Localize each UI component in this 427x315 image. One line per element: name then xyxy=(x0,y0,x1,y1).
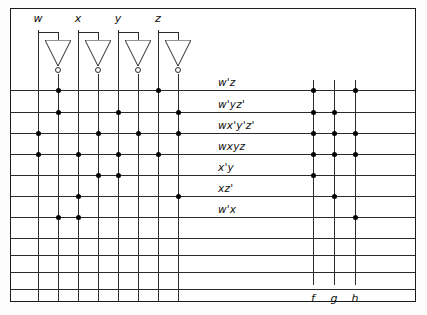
input-label-z: z xyxy=(155,12,161,25)
inverter-w xyxy=(45,40,71,66)
inverter-lead-x xyxy=(98,32,99,40)
inverter-tap-wire-w xyxy=(38,32,58,33)
and-dot-6-w-not xyxy=(56,215,61,220)
or-dot-2-g xyxy=(332,131,337,136)
and-dot-5-x xyxy=(76,194,81,199)
or-dot-0-f xyxy=(311,88,316,93)
inverter-bubble-y xyxy=(135,67,141,73)
input-line-x xyxy=(78,30,79,301)
or-dot-0-h xyxy=(353,88,358,93)
inverter-tap-wire-y xyxy=(118,32,138,33)
input-label-w: w xyxy=(34,12,43,25)
inverter-lead-y xyxy=(138,32,139,40)
and-dot-4-x-not xyxy=(96,173,101,178)
input-line-w-not xyxy=(58,74,59,301)
inverter-bubble-x xyxy=(95,67,101,73)
product-term-label-4: x'y xyxy=(218,161,234,173)
input-line-y xyxy=(118,30,119,301)
diagram-layer: wxyzw'zw'yz'wx'y'z'wxyzx'yxz'w'xfgh xyxy=(0,0,427,315)
input-label-x: x xyxy=(75,12,82,25)
input-line-y-not xyxy=(138,74,139,301)
and-dot-2-z-not xyxy=(176,131,181,136)
and-dot-2-y-not xyxy=(136,131,141,136)
output-label-g: g xyxy=(331,292,338,305)
or-dot-3-g xyxy=(332,152,337,157)
inverter-x xyxy=(85,40,111,66)
product-term-label-2: wx'y'z' xyxy=(218,119,255,131)
output-label-h: h xyxy=(352,292,359,305)
product-term-label-5: xz' xyxy=(218,182,233,194)
input-line-w xyxy=(38,30,39,301)
input-line-z xyxy=(158,30,159,301)
input-line-x-not xyxy=(98,74,99,301)
and-dot-1-z-not xyxy=(176,110,181,115)
or-dot-3-h xyxy=(353,152,358,157)
product-term-label-3: wxyz xyxy=(218,140,245,152)
and-dot-4-y xyxy=(116,173,121,178)
inverter-tap-wire-z xyxy=(158,32,178,33)
or-dot-5-g xyxy=(332,194,337,199)
inverter-bubble-z xyxy=(175,67,181,73)
or-dot-1-g xyxy=(332,110,337,115)
inverter-tap-wire-x xyxy=(78,32,98,33)
or-dot-4-f xyxy=(311,173,316,178)
inverter-bubble-w xyxy=(55,67,61,73)
inverter-lead-w xyxy=(58,32,59,40)
and-dot-1-y xyxy=(116,110,121,115)
or-dot-2-f xyxy=(311,131,316,136)
input-line-z-not xyxy=(178,74,179,301)
inverter-y xyxy=(125,40,151,66)
and-dot-5-z-not xyxy=(176,194,181,199)
or-dot-2-h xyxy=(353,131,358,136)
product-term-label-6: w'x xyxy=(218,203,236,215)
product-term-label-1: w'yz' xyxy=(218,98,245,110)
or-dot-3-f xyxy=(311,152,316,157)
inverter-z xyxy=(165,40,191,66)
and-dot-2-x-not xyxy=(96,131,101,136)
input-label-y: y xyxy=(115,12,122,25)
and-dot-0-w-not xyxy=(56,88,61,93)
and-dot-0-z xyxy=(156,88,161,93)
and-dot-2-w xyxy=(36,131,41,136)
product-term-label-0: w'z xyxy=(218,76,236,88)
and-dot-1-w-not xyxy=(56,110,61,115)
product-term-line-10 xyxy=(11,289,415,290)
inverter-lead-z xyxy=(178,32,179,40)
and-dot-3-w xyxy=(36,152,41,157)
or-dot-6-h xyxy=(353,215,358,220)
output-line-h xyxy=(355,80,356,285)
and-dot-3-y xyxy=(116,152,121,157)
output-label-f: f xyxy=(311,292,315,305)
or-dot-1-f xyxy=(311,110,316,115)
and-dot-3-z xyxy=(156,152,161,157)
pla-diagram-root: wxyzw'zw'yz'wx'y'z'wxyzx'yxz'w'xfgh xyxy=(0,0,427,315)
and-dot-6-x xyxy=(76,215,81,220)
and-dot-3-x xyxy=(76,152,81,157)
